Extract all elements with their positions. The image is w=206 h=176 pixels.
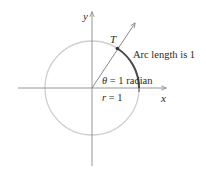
x-axis-label: x bbox=[160, 92, 166, 104]
angle-unit: radian bbox=[126, 75, 153, 86]
angle-label: θ = 1 radian bbox=[102, 75, 153, 86]
radius-label: r = 1 bbox=[102, 92, 123, 103]
point-t bbox=[116, 47, 120, 51]
unit-circle-diagram: y x T Arc length is 1 θ = 1 radian r = 1 bbox=[0, 0, 206, 176]
y-axis-label: y bbox=[82, 10, 88, 22]
point-t-label: T bbox=[110, 33, 117, 45]
radius-equals: = 1 bbox=[106, 92, 122, 103]
angle-equals: = 1 bbox=[107, 75, 126, 86]
arc-length-label: Arc length is 1 bbox=[133, 49, 195, 60]
